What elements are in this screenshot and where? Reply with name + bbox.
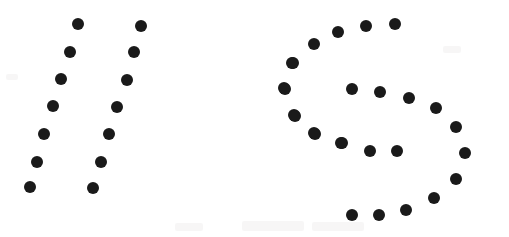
glyph-dot bbox=[373, 209, 385, 221]
glyph-dot bbox=[111, 101, 123, 113]
glyph-dot bbox=[374, 86, 386, 98]
glyph-dot bbox=[391, 145, 403, 157]
glyph-dot bbox=[87, 182, 99, 194]
glyph-dot bbox=[289, 110, 301, 122]
glyph-dot bbox=[364, 145, 376, 157]
glyph-dot bbox=[450, 173, 462, 185]
glyph-dot bbox=[400, 204, 412, 216]
glyph-dot bbox=[459, 147, 471, 159]
glyph-dot bbox=[430, 102, 442, 114]
glyph-dot bbox=[128, 46, 140, 58]
glyph-dot bbox=[24, 181, 36, 193]
glyph-dot bbox=[335, 137, 347, 149]
glyph-dot bbox=[55, 73, 67, 85]
glyph-dot bbox=[286, 57, 298, 69]
glyph-dot bbox=[279, 83, 291, 95]
glyph-dot bbox=[308, 127, 320, 139]
glyph-dot bbox=[64, 46, 76, 58]
glyph-dot bbox=[95, 156, 107, 168]
glyph-dot bbox=[403, 92, 415, 104]
glyph-dot bbox=[332, 26, 344, 38]
glyph-dot bbox=[428, 192, 440, 204]
glyph-dot bbox=[121, 74, 133, 86]
glyph-dot bbox=[360, 20, 372, 32]
glyph-dot bbox=[47, 100, 59, 112]
glyph-dot bbox=[450, 121, 462, 133]
glyph-dot bbox=[72, 18, 84, 30]
figure-root bbox=[0, 0, 509, 237]
glyph-dot bbox=[31, 156, 43, 168]
glyph-dot bbox=[38, 128, 50, 140]
glyph-dot bbox=[308, 38, 320, 50]
glyph-dot bbox=[389, 18, 401, 30]
glyph-dot bbox=[346, 83, 358, 95]
glyph-dot bbox=[346, 209, 358, 221]
dotted-glyph-canvas bbox=[0, 0, 509, 237]
glyph-dot bbox=[103, 128, 115, 140]
glyph-dot bbox=[135, 20, 147, 32]
